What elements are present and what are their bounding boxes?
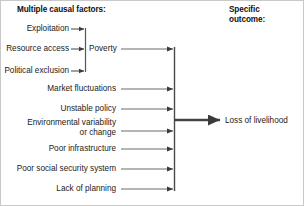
factor-label-unstable-policy: Unstable policy <box>11 104 116 114</box>
factor-label-lack-of-planning: Lack of planning <box>11 184 116 194</box>
header-specific-outcome: Specific outcome: <box>229 5 265 25</box>
outcome-label-loss-of-livelihood: Loss of livelihood <box>225 116 288 125</box>
factor-label-exploitation: Exploitation <box>1 24 69 34</box>
factor-label-poor-social-security-system: Poor social security system <box>3 164 116 174</box>
factor-label-market-fluctuations: Market fluctuations <box>11 84 116 94</box>
factor-label-environmental-variability: Environmental variability or change <box>11 118 116 137</box>
factor-label-political-exclusion: Political exclusion <box>1 66 69 76</box>
factor-label-poor-infrastructure: Poor infrastructure <box>11 144 116 154</box>
factor-label-resource-access: Resource access <box>1 44 69 54</box>
node-label-poverty: Poverty <box>89 44 117 54</box>
factor-connector-arrows <box>121 49 173 189</box>
cluster-input-arrows <box>71 29 84 71</box>
diagram-canvas: Multiple causal factors: Specific outcom… <box>0 0 304 206</box>
header-multiple-causal-factors: Multiple causal factors: <box>17 5 106 15</box>
